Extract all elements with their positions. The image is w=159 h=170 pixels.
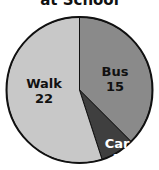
slice-label-walk: Walk <box>26 76 62 91</box>
pie-chart: Bus15Car3Walk22 <box>0 0 159 170</box>
slice-value-bus: 15 <box>106 79 124 94</box>
slice-value-walk: 22 <box>35 91 53 106</box>
slice-label-car: Car <box>105 136 130 151</box>
slice-label-bus: Bus <box>102 64 129 79</box>
slice-value-car: 3 <box>112 151 121 166</box>
